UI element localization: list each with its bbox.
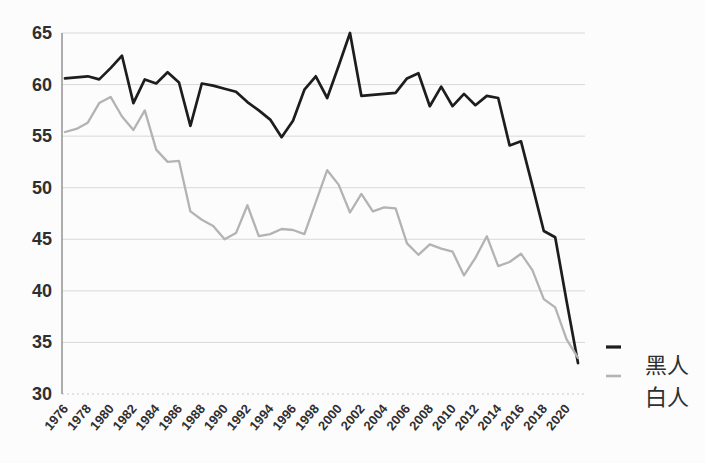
y-axis-tick-label: 55 xyxy=(32,126,52,146)
x-axis-tick-label: 2004 xyxy=(360,401,391,433)
y-axis-tick-label: 65 xyxy=(32,23,52,43)
y-axis-tick-label: 30 xyxy=(32,384,52,404)
y-axis-tick-label: 35 xyxy=(32,332,52,352)
x-axis-tick-label: 1992 xyxy=(224,401,254,433)
x-axis-tick-label: 2016 xyxy=(497,401,527,433)
x-axis-tick-label: 2008 xyxy=(406,401,436,433)
x-axis-tick-label: 1994 xyxy=(246,401,277,433)
x-axis-tick-label: 1976 xyxy=(41,401,71,433)
y-axis-tick-label: 60 xyxy=(32,75,52,95)
y-axis-tick-label: 50 xyxy=(32,178,52,198)
x-axis-tick-label: 1990 xyxy=(201,401,231,433)
x-axis-tick-label: 2018 xyxy=(520,401,550,433)
legend-label-0: 黑人 xyxy=(645,353,689,378)
x-axis-tick-label: 1980 xyxy=(87,401,117,433)
x-axis-tick-label: 2020 xyxy=(543,401,573,433)
x-axis-tick-label: 2002 xyxy=(338,401,368,433)
x-axis-tick-label: 1982 xyxy=(110,401,140,433)
x-axis-tick-label: 1978 xyxy=(64,401,94,433)
x-axis-tick-label: 2014 xyxy=(474,401,505,433)
y-axis-tick-label: 40 xyxy=(32,281,52,301)
x-axis-tick-label: 2012 xyxy=(452,401,482,433)
x-axis-tick-label: 2000 xyxy=(315,401,345,433)
x-axis-tick-label: 1998 xyxy=(292,401,322,433)
x-axis-tick-label: 1986 xyxy=(155,401,185,433)
series-line-black xyxy=(65,33,578,363)
line-chart: 3035404550556065197619781980198219841986… xyxy=(0,0,705,463)
x-axis-tick-label: 2006 xyxy=(383,401,413,433)
chart-page: 3035404550556065197619781980198219841986… xyxy=(0,0,705,463)
legend-label-1: 白人 xyxy=(645,385,689,410)
x-axis-tick-label: 1988 xyxy=(178,401,208,433)
x-axis-tick-label: 2010 xyxy=(429,401,459,433)
x-axis-tick-label: 1984 xyxy=(132,401,163,433)
x-axis-tick-label: 1996 xyxy=(269,401,299,433)
y-axis-tick-label: 45 xyxy=(32,229,52,249)
